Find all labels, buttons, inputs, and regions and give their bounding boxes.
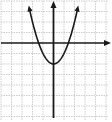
x-axis-arrow-icon — [104, 40, 111, 46]
grid-lines — [1, 1, 108, 120]
axes — [1, 1, 111, 118]
curve-right-arrow-icon — [74, 6, 79, 12]
curve-left-arrow-icon — [27, 6, 32, 12]
parabola-graph — [0, 0, 112, 122]
y-axis-arrow-icon — [51, 1, 57, 8]
